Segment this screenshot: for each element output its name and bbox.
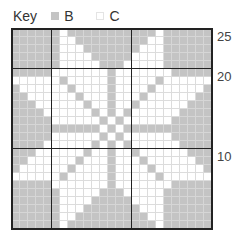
chart-cell	[28, 197, 36, 205]
chart-cell	[36, 37, 44, 45]
row-label: 25	[217, 30, 231, 43]
chart-cell	[108, 125, 116, 133]
chart-cell	[172, 173, 180, 181]
chart-cell	[180, 165, 188, 173]
chart-cell	[148, 181, 156, 189]
chart-cell	[196, 53, 204, 61]
chart-cell	[68, 165, 76, 173]
chart-cell	[140, 125, 148, 133]
chart-cell	[60, 93, 68, 101]
chart-cell	[188, 189, 196, 197]
chart-cell	[100, 189, 108, 197]
chart-cell	[204, 101, 212, 109]
chart-cell	[12, 165, 20, 173]
chart-grid	[12, 29, 212, 229]
chart-cell	[100, 173, 108, 181]
chart-cell	[20, 37, 28, 45]
chart-cell	[100, 181, 108, 189]
chart-cell	[172, 109, 180, 117]
chart-cell	[100, 117, 108, 125]
chart-cell	[36, 29, 44, 37]
chart-cell	[116, 197, 124, 205]
chart-cell	[172, 37, 180, 45]
chart-cell	[164, 181, 172, 189]
chart-cell	[132, 85, 140, 93]
chart-cell	[52, 173, 60, 181]
chart-cell	[76, 37, 84, 45]
chart-cell	[108, 37, 116, 45]
chart-cell	[36, 133, 44, 141]
chart-cell	[68, 77, 76, 85]
chart-cell	[148, 157, 156, 165]
chart-cell	[164, 157, 172, 165]
chart-cell	[20, 125, 28, 133]
chart-cell	[156, 85, 164, 93]
chart-cell	[204, 93, 212, 101]
chart-cell	[140, 189, 148, 197]
chart-cell	[180, 29, 188, 37]
chart-cell	[116, 37, 124, 45]
chart-cell	[84, 133, 92, 141]
chart-cell	[172, 85, 180, 93]
chart-cell	[68, 189, 76, 197]
chart-cell	[100, 53, 108, 61]
chart-cell	[204, 125, 212, 133]
chart-cell	[12, 85, 20, 93]
chart-cell	[84, 221, 92, 229]
chart-cell	[140, 133, 148, 141]
chart-cell	[60, 133, 68, 141]
chart-cell	[204, 157, 212, 165]
chart-cell	[20, 69, 28, 77]
chart-cell	[84, 189, 92, 197]
chart-cell	[36, 109, 44, 117]
chart-cell	[180, 197, 188, 205]
chart-cell	[148, 29, 156, 37]
chart-cell	[28, 117, 36, 125]
chart-cell	[92, 77, 100, 85]
chart-cell	[180, 189, 188, 197]
chart-cell	[92, 117, 100, 125]
chart-cell	[148, 165, 156, 173]
chart-cell	[196, 69, 204, 77]
chart-cell	[92, 165, 100, 173]
chart-cell	[92, 189, 100, 197]
chart-cell	[28, 173, 36, 181]
chart-cell	[84, 85, 92, 93]
chart-cell	[28, 77, 36, 85]
chart-cell	[132, 149, 140, 157]
chart-cell	[100, 93, 108, 101]
chart-cell	[108, 189, 116, 197]
chart-cell	[68, 117, 76, 125]
chart-cell	[92, 101, 100, 109]
chart-cell	[68, 85, 76, 93]
chart-cell	[100, 77, 108, 85]
chart-cell	[132, 157, 140, 165]
chart-cell	[180, 109, 188, 117]
swatch-b-icon	[51, 12, 59, 20]
chart-cell	[100, 101, 108, 109]
chart-cell	[172, 77, 180, 85]
chart-cell	[60, 53, 68, 61]
chart-cell	[108, 69, 116, 77]
chart-cell	[92, 149, 100, 157]
chart-cell	[36, 221, 44, 229]
chart-cell	[188, 37, 196, 45]
chart-cell	[68, 53, 76, 61]
chart-cell	[28, 45, 36, 53]
chart-cell	[36, 69, 44, 77]
chart-cell	[28, 109, 36, 117]
chart-cell	[156, 45, 164, 53]
chart-cell	[84, 117, 92, 125]
chart-cell	[164, 213, 172, 221]
chart-cell	[132, 125, 140, 133]
chart-cell	[140, 149, 148, 157]
key-legend: Key B C	[13, 7, 143, 25]
chart-cell	[76, 93, 84, 101]
chart-cell	[196, 205, 204, 213]
chart-cell	[188, 197, 196, 205]
chart-cell	[20, 221, 28, 229]
chart-cell	[92, 205, 100, 213]
chart-cell	[188, 133, 196, 141]
chart-cell	[92, 157, 100, 165]
chart-cell	[196, 181, 204, 189]
